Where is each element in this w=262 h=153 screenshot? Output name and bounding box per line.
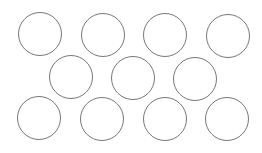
circle-shape — [143, 97, 187, 141]
circle-shape — [205, 97, 249, 141]
circle-shape — [143, 13, 187, 57]
circle-shape — [17, 96, 61, 140]
circle-shape — [206, 14, 250, 58]
circle-shape — [80, 97, 124, 141]
circle-shape — [111, 56, 155, 100]
circle-shape — [18, 12, 62, 56]
circle-shape — [49, 55, 93, 99]
circle-shape — [173, 57, 217, 101]
circle-diagram — [0, 0, 262, 153]
circle-shape — [81, 13, 125, 57]
